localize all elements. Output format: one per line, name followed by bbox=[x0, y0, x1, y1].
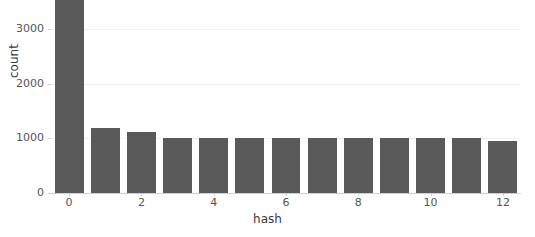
y-tick-mark bbox=[48, 29, 51, 30]
x-tick-label: 0 bbox=[49, 197, 89, 209]
y-tick-mark bbox=[48, 84, 51, 85]
y-tick-label: 0 bbox=[0, 187, 44, 198]
bar[interactable] bbox=[127, 132, 156, 193]
bar-chart: 0100020003000 024681012 count hash bbox=[0, 0, 535, 237]
x-tick-label: 4 bbox=[194, 197, 234, 209]
y-tick-label: 2000 bbox=[0, 78, 44, 89]
y-tick-mark bbox=[48, 193, 51, 194]
bar[interactable] bbox=[272, 138, 301, 193]
bar[interactable] bbox=[91, 128, 120, 193]
bar[interactable] bbox=[163, 138, 192, 193]
bar[interactable] bbox=[488, 141, 517, 193]
y-tick-label: 3000 bbox=[0, 23, 44, 34]
y-tick-mark bbox=[48, 138, 51, 139]
plot-area bbox=[51, 0, 521, 193]
x-tick-label: 8 bbox=[338, 197, 378, 209]
x-tick-label: 12 bbox=[483, 197, 523, 209]
bar[interactable] bbox=[199, 138, 228, 193]
y-tick-label: 1000 bbox=[0, 132, 44, 143]
x-tick-label: 2 bbox=[121, 197, 161, 209]
bar[interactable] bbox=[380, 138, 409, 193]
bar[interactable] bbox=[235, 138, 264, 193]
bar[interactable] bbox=[452, 138, 481, 193]
bar[interactable] bbox=[308, 138, 337, 193]
bar-series bbox=[51, 0, 521, 193]
y-axis-label: count bbox=[7, 44, 21, 78]
x-axis-label: hash bbox=[0, 212, 535, 226]
x-tick-label: 10 bbox=[411, 197, 451, 209]
bar[interactable] bbox=[344, 138, 373, 193]
bar[interactable] bbox=[55, 0, 84, 193]
bar[interactable] bbox=[416, 138, 445, 193]
x-tick-label: 6 bbox=[266, 197, 306, 209]
